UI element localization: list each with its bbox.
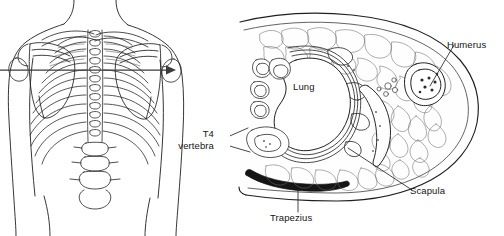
label-scapula: Scapula [410, 185, 445, 196]
label-t4-vertebra-line1: T4 [166, 128, 214, 139]
thoracic-vertebrae [87, 30, 103, 142]
left-panel-posterior-skeleton [0, 0, 230, 236]
clavicle [42, 31, 148, 47]
lumbar-vertebrae [70, 142, 120, 209]
label-trapezius: Trapezius [270, 212, 312, 223]
scapula [18, 43, 172, 120]
label-lung: Lung [293, 81, 315, 92]
label-t4-vertebra-line2: vertebra [146, 140, 214, 151]
anatomy-figure: Humerus Scapula Trapezius Lung T4 verteb… [0, 0, 504, 236]
label-humerus: Humerus [447, 39, 486, 50]
humerus-section [404, 63, 445, 106]
section-plane-arrow [0, 66, 176, 75]
right-panel-transverse-section [230, 0, 504, 236]
